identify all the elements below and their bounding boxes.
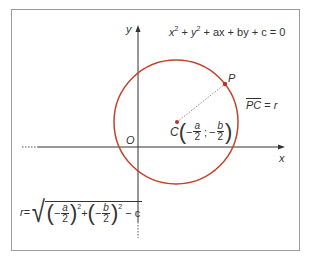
paren-close: ) xyxy=(111,203,118,223)
eq-plus: + xyxy=(178,26,191,38)
x-axis-arrow-icon xyxy=(278,145,285,150)
paren-open: ( xyxy=(179,122,186,142)
point-p xyxy=(223,82,227,86)
fraction-b-over-2: b2 xyxy=(102,203,110,224)
eq-rest: + ax + by + c = 0 xyxy=(200,26,285,38)
minus-c: − c xyxy=(122,207,140,219)
x-axis-label: x xyxy=(279,152,285,164)
radius-formula: r = √ ( − a2 ) 2 + ( − b2 ) 2 − c xyxy=(20,198,142,226)
radius-segment xyxy=(177,84,225,122)
point-p-label: P xyxy=(228,72,235,84)
fraction-b-over-2: b2 xyxy=(217,121,225,142)
center-label: C xyxy=(170,125,179,139)
segment-pc: PC xyxy=(246,99,261,111)
y-axis-arrow-icon xyxy=(136,25,141,32)
equals-sign: = xyxy=(261,99,274,111)
paren-open: ( xyxy=(47,203,54,223)
radical-sign-icon: √ xyxy=(32,198,45,226)
radius-symbol: r xyxy=(274,99,278,111)
radius-relation: PC = r xyxy=(246,99,278,111)
y-axis-label: y xyxy=(126,23,132,35)
center-coordinates: C ( − a2 ; − b2 ) xyxy=(170,121,232,142)
fraction-a-over-2: a2 xyxy=(61,203,69,224)
minus-b: − xyxy=(209,126,215,138)
separator: ; xyxy=(204,126,207,138)
frac-num: a xyxy=(61,203,69,214)
frac-den: 2 xyxy=(193,132,201,142)
radicand: ( − a2 ) 2 + ( − b2 ) 2 − c xyxy=(45,201,143,224)
square-root: √ ( − a2 ) 2 + ( − b2 ) 2 − c xyxy=(30,198,142,226)
frac-num: b xyxy=(102,203,110,214)
minus: − xyxy=(54,207,60,219)
frac-den: 2 xyxy=(102,214,110,224)
fraction-a-over-2: a2 xyxy=(193,121,201,142)
frac-den: 2 xyxy=(61,214,69,224)
minus-a: − xyxy=(186,126,192,138)
frac-den: 2 xyxy=(217,132,225,142)
paren-close: ) xyxy=(70,203,77,223)
circle-general-equation: x2 + y2 + ax + by + c = 0 xyxy=(169,25,285,38)
minus: − xyxy=(95,207,101,219)
origin-label: O xyxy=(126,134,135,146)
paren-close: ) xyxy=(225,122,232,142)
paren-open: ( xyxy=(88,203,95,223)
